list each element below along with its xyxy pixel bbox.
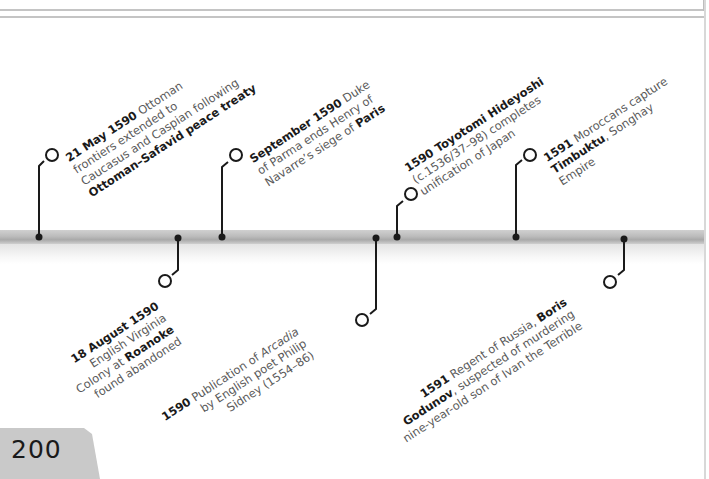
timeline-dot xyxy=(513,234,520,241)
connector-hideyoshi xyxy=(397,188,417,237)
connector-siege-of-paris xyxy=(222,149,242,237)
connector-ottoman-safavid xyxy=(39,149,58,237)
connector-arcadia xyxy=(356,237,376,326)
connector-timbuktu xyxy=(516,149,536,237)
timeline-dot xyxy=(175,235,182,242)
connector-roanoke xyxy=(159,237,178,287)
timeline-dot xyxy=(373,235,380,242)
connector-godunov xyxy=(604,239,624,288)
timeline-dot xyxy=(36,234,43,241)
timeline-dot xyxy=(219,234,226,241)
timeline-connectors xyxy=(0,0,709,479)
timeline-dot xyxy=(621,236,628,243)
page-number: 200 xyxy=(11,435,62,464)
timeline-dot xyxy=(394,234,401,241)
